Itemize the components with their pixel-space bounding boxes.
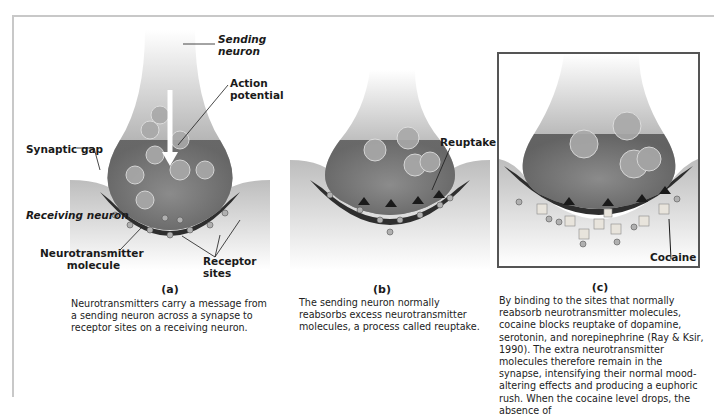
leader-lines — [0, 0, 706, 393]
